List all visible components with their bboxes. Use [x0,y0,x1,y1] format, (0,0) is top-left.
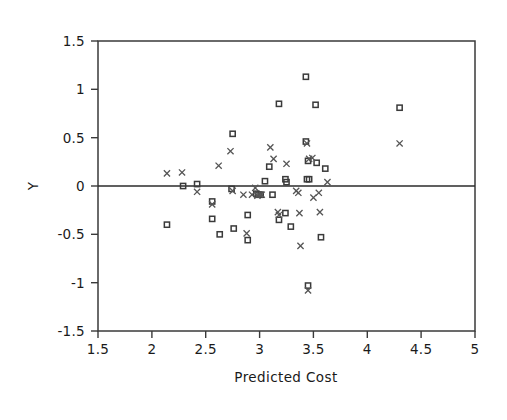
x-tick-label: 4 [363,341,372,357]
y-tick-label: 0.5 [63,130,85,146]
x-tick-label: 1.5 [87,341,109,357]
y-tick-label: 1.5 [63,33,85,49]
scatter-plot-figure: 1.5 2 2.5 3 3.5 4 4.5 5 1.5 1 0.5 0 -0.5… [0,0,507,420]
y-tick-label: -1.5 [57,323,85,339]
x-tick-label: 5 [471,341,480,357]
y-tick-label: 0 [76,178,85,194]
x-tick-label: 2 [147,341,156,357]
y-tick-label: -1 [71,275,85,291]
y-tick-label: -0.5 [57,226,85,242]
y-axis-label: Y [25,181,41,191]
x-tick-label: 3 [255,341,264,357]
x-tick-label: 2.5 [195,341,217,357]
x-tick-label: 3.5 [302,341,324,357]
figure-background [0,0,507,420]
x-axis-label: Predicted Cost [234,369,337,385]
x-tick-label: 4.5 [410,341,432,357]
y-tick-label: 1 [76,81,85,97]
